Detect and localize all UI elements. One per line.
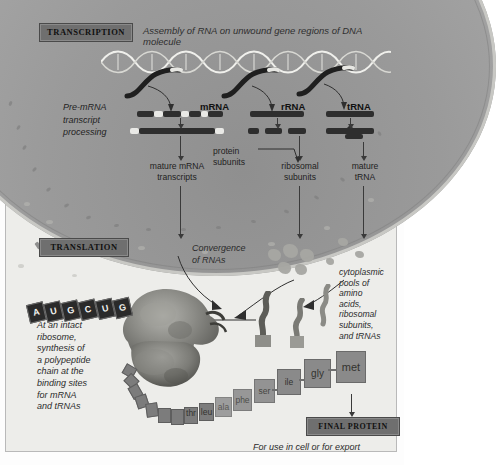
amino-acid-block: phe <box>233 389 252 411</box>
amino-acid-block: leu <box>199 403 214 421</box>
nuclear-pore <box>216 226 221 229</box>
export-arrow-ribosome <box>299 186 300 234</box>
final-protein-arrow <box>351 394 352 412</box>
nuclear-pore <box>181 228 186 231</box>
free-molecule <box>355 251 364 258</box>
transcript-arrow <box>250 84 280 114</box>
translation-label: TRANSLATION <box>39 238 129 257</box>
amino-acid-block: thr <box>184 407 198 424</box>
amino-acid-block: ile <box>277 369 301 395</box>
export-arrow-trna <box>363 186 364 234</box>
ribosomal-subunit-blob <box>283 244 298 258</box>
nuclear-pore <box>146 228 151 231</box>
mature-trna-shape <box>326 128 374 142</box>
final-protein-label: FINAL PROTEIN <box>306 417 400 436</box>
amino-acid-block: gly <box>304 359 331 388</box>
process-arrow <box>363 142 364 156</box>
ribosomal-subunit-blob <box>300 249 314 262</box>
amino-acid-block: met <box>336 351 366 383</box>
process-arrow <box>277 118 278 124</box>
transcription-label: TRANSCRIPTION <box>39 23 133 42</box>
polypeptide-bead <box>145 402 159 418</box>
cytoplasm-speck <box>324 226 330 230</box>
peptide-bond <box>272 389 278 391</box>
diagram-frame: TRANSCRIPTION Assembly of RNA on unwound… <box>5 5 397 452</box>
cytoplasm-speck <box>138 246 145 250</box>
process-arrow <box>180 118 181 124</box>
mrna-base: G <box>112 297 133 319</box>
mature-mrna-label: mature mRNA transcripts <box>134 161 220 183</box>
ribosomal-subunit-blob <box>295 264 307 275</box>
charged-trna <box>289 298 311 348</box>
process-arrow <box>180 136 181 156</box>
mature-trna-label: mature tRNA <box>339 161 391 183</box>
free-molecule <box>338 238 348 246</box>
amino-acid-block: ala <box>215 397 232 417</box>
cytoplasm-speck <box>368 198 374 202</box>
trna-label: tRNA <box>347 101 371 112</box>
process-arrow <box>350 118 351 124</box>
pre-mrna-processing-label: Pre-mRNA transcript processing <box>63 101 107 139</box>
cytoplasm-speck <box>72 274 77 277</box>
ribosomal-subunit-blob <box>278 262 291 274</box>
header-description: Assembly of RNA on unwound gene regions … <box>143 25 396 47</box>
polypeptide-bead <box>171 409 184 425</box>
ribosomal-subunits-label: ribosomal subunits <box>264 161 336 183</box>
amino-acid-block: ser <box>254 379 275 403</box>
mrna-label: mRNA <box>200 101 229 112</box>
export-description: For use in cell or for export <box>253 442 360 452</box>
cytoplasm-speck <box>24 202 30 206</box>
cytoplasm-speck <box>46 220 53 224</box>
charged-trna <box>254 291 278 347</box>
export-arrow-mrna <box>180 186 181 234</box>
nuclear-pore <box>251 220 256 224</box>
ribosomal-subunit-blob <box>268 249 281 261</box>
free-molecule <box>326 258 334 265</box>
protein-subunits-label: protein subunits <box>213 146 265 168</box>
charged-trna <box>316 284 336 328</box>
transcript-arrow <box>146 84 180 114</box>
peptide-bond <box>299 379 305 381</box>
polypeptide-bead <box>158 408 171 423</box>
peptide-bond <box>328 369 337 371</box>
rrna-label: rRNA <box>281 101 305 112</box>
cytoplasm-speck <box>268 242 275 246</box>
cytoplasm-speck <box>18 264 24 268</box>
